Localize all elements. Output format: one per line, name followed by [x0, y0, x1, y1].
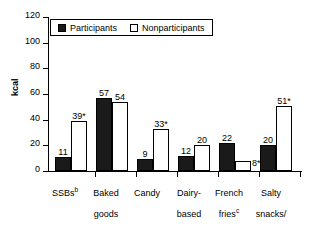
x-category-label-ssbs-superscript: b: [74, 186, 78, 193]
bar-value-participants-baked-goods: 57: [99, 89, 109, 98]
x-category-label-ssbs: SSBsb: [43, 177, 87, 198]
bar-nonparticipants-dairy-based-desserts: 20: [194, 145, 210, 171]
bar-participants-ssbs: 11: [55, 157, 71, 171]
legend-label-participants: Participants: [70, 23, 117, 33]
y-tick-label-80: 80: [30, 61, 40, 71]
bar-group-baked-goods: 57 54: [96, 17, 128, 171]
x-category-label-baked-goods-line2: goods: [84, 209, 128, 220]
y-tick-80: 80: [43, 68, 48, 69]
bar-value-nonparticipants-salty-snacks-chips: 51*: [277, 97, 291, 106]
bar-value-nonparticipants-candy: 33*: [154, 120, 168, 129]
x-category-label-baked-goods-line1: Baked: [84, 188, 128, 199]
bar-participants-salty-snacks-chips: 20: [260, 145, 276, 171]
x-axis-line: [48, 171, 302, 172]
x-category-label-baked-goods: Baked goods: [84, 177, 128, 226]
open-square-icon: [130, 24, 138, 32]
x-category-label-candy-line1: Candy: [134, 188, 160, 198]
x-category-label-salty-snacks-chips: Salty snacks/ chips: [248, 177, 294, 226]
legend-item-participants: Participants: [58, 23, 117, 33]
x-category-label-ssbs-line1: SSBs: [52, 188, 75, 198]
y-tick-0: 0: [43, 171, 48, 172]
x-category-label-french-fries: French friesc: [207, 177, 251, 226]
y-tick-20: 20: [43, 145, 48, 146]
x-category-label-salty-snacks-chips-line2: snacks/: [248, 209, 294, 220]
bar-nonparticipants-french-fries: 8*: [235, 161, 251, 171]
legend-label-nonparticipants: Nonparticipants: [142, 23, 205, 33]
x-category-label-dairy-based-desserts-line1: Dairy-: [166, 188, 212, 199]
y-tick-label-120: 120: [25, 10, 40, 20]
bar-participants-french-fries: 22: [219, 143, 235, 171]
filled-square-icon: [58, 24, 66, 32]
bar-value-nonparticipants-baked-goods: 54: [115, 93, 125, 102]
bar-value-participants-candy: 9: [142, 150, 147, 159]
bar-value-nonparticipants-ssbs: 39*: [72, 112, 86, 121]
bar-value-participants-salty-snacks-chips: 20: [263, 136, 273, 145]
bar-group-french-fries: 22 8*: [219, 17, 251, 171]
bar-participants-candy: 9: [137, 159, 153, 171]
y-tick-label-60: 60: [30, 87, 40, 97]
y-tick-100: 100: [43, 43, 48, 44]
bar-group-ssbs: 11 39*: [55, 17, 87, 171]
bar-group-salty-snacks-chips: 20 51*: [260, 17, 292, 171]
x-category-label-dairy-based-desserts: Dairy- based desserts: [166, 177, 212, 226]
y-tick-label-0: 0: [35, 164, 40, 174]
y-axis-title: kcal: [10, 82, 20, 96]
legend-item-nonparticipants: Nonparticipants: [130, 23, 205, 33]
x-category-label-candy: Candy: [125, 177, 169, 198]
x-category-label-french-fries-superscript: c: [236, 207, 239, 214]
x-category-label-salty-snacks-chips-line1: Salty: [248, 188, 294, 199]
y-tick-label-100: 100: [25, 36, 40, 46]
bar-group-candy: 9 33*: [137, 17, 169, 171]
y-tick-40: 40: [43, 120, 48, 121]
x-tick-sep-6: [300, 172, 301, 177]
bar-nonparticipants-baked-goods: 54: [112, 102, 128, 171]
x-category-label-french-fries-line2: fries: [219, 209, 236, 219]
y-tick-60: 60: [43, 94, 48, 95]
bar-group-dairy-based-desserts: 12 20: [178, 17, 210, 171]
y-tick-120: 120: [43, 17, 48, 18]
grouped-bar-chart: kcal 0 20 40 60 80 100 120: [0, 0, 318, 226]
bar-participants-dairy-based-desserts: 12: [178, 156, 194, 171]
bar-nonparticipants-salty-snacks-chips: 51*: [276, 106, 292, 172]
bar-nonparticipants-candy: 33*: [153, 129, 169, 171]
chart-legend: Participants Nonparticipants: [50, 19, 213, 36]
y-tick-label-20: 20: [30, 138, 40, 148]
bar-nonparticipants-ssbs: 39*: [71, 121, 87, 171]
x-category-label-dairy-based-desserts-line2: based: [166, 209, 212, 220]
bar-value-participants-ssbs: 11: [58, 148, 67, 157]
y-axis-line: [48, 17, 49, 172]
bar-value-participants-dairy-based-desserts: 12: [181, 147, 191, 156]
y-tick-label-40: 40: [30, 113, 40, 123]
x-category-label-french-fries-line1: French: [207, 188, 251, 199]
plot-area: 0 20 40 60 80 100 120 11: [48, 17, 302, 172]
bar-value-nonparticipants-dairy-based-desserts: 20: [197, 136, 207, 145]
bar-participants-baked-goods: 57: [96, 98, 112, 171]
bar-value-participants-french-fries: 22: [222, 134, 232, 143]
